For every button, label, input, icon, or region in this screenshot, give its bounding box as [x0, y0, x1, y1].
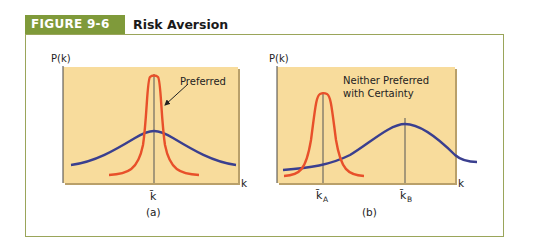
panel-a-caption: (a) — [146, 206, 161, 218]
panel-b-mean-b-label: k̄ — [399, 189, 407, 202]
panel-b-mean-a-label: k̄ — [315, 189, 323, 202]
risk-aversion-diagram: P(k) k k̄ (a) Preferred P(k) k k̄ A k̄ B… — [0, 0, 533, 251]
panel-b-annotation-line1: Neither Preferred — [343, 75, 429, 86]
panel-a-y-axis-label: P(k) — [51, 53, 71, 64]
panel-b-caption: (b) — [362, 206, 377, 218]
panel-a-annotation: Preferred — [180, 76, 226, 87]
panel-b-mean-b-subscript: B — [407, 195, 412, 204]
panel-b-y-axis-label: P(k) — [269, 53, 289, 64]
panel-b-annotation-line2: with Certainty — [343, 88, 414, 99]
panel-a-x-axis-label: k — [241, 177, 248, 189]
panel-b-x-axis-label: k — [458, 177, 465, 189]
panel-b-mean-a-subscript: A — [323, 195, 329, 204]
panel-a-mean-label: k̄ — [149, 190, 157, 203]
